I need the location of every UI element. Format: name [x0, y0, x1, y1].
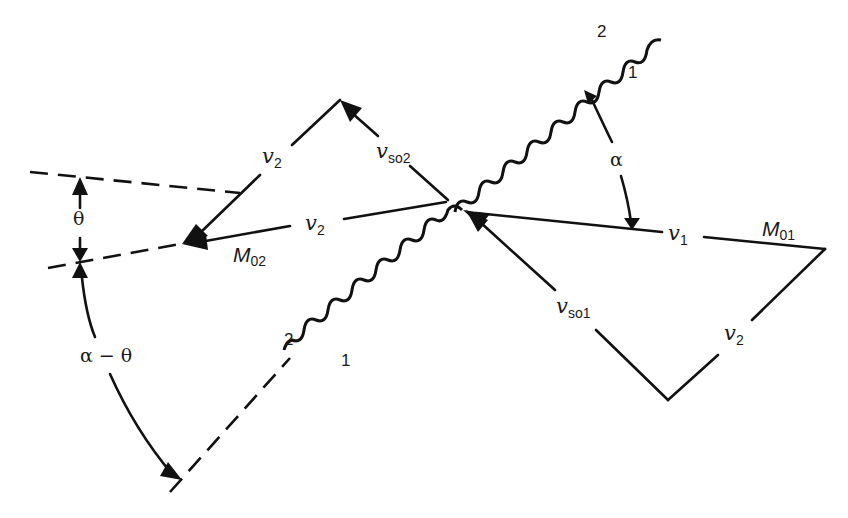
label-M01: M01: [762, 217, 795, 243]
alpha-arc-upper: [592, 100, 612, 142]
label-lower-wave-side-1: 1: [341, 351, 350, 370]
v2-middle-vector-right-segment: [344, 202, 446, 219]
label-theta: θ: [73, 207, 84, 229]
label-v1: v1: [668, 221, 688, 248]
label-upper-wave-side-1: 1: [628, 63, 637, 82]
vso2-vector-upper-segment: [352, 113, 378, 136]
alpha-theta-arrowhead-top-icon: [72, 262, 88, 278]
v2-upper-vector-top-segment: [292, 100, 340, 145]
alpha-theta-arc-upper: [82, 278, 95, 337]
label-v2-middle: v2: [305, 211, 325, 238]
shock-vector-diagram: v2 vso2 v2 M02 v1 M01 vso1 v2 θ α α − θ …: [0, 0, 848, 518]
v2-middle-vector-left-segment: [200, 226, 290, 242]
alpha-theta-arc-lower: [110, 374, 172, 474]
label-v2-lower: v2: [724, 321, 744, 348]
label-lower-wave-side-2: 2: [284, 330, 293, 349]
dashed-wave-extension: [170, 358, 290, 492]
v2-lower-vector-top-segment: [752, 249, 825, 320]
alpha-arc-lower: [621, 176, 631, 222]
vso1-vector-bottom-segment: [596, 330, 668, 400]
dashed-reference-line-upper: [30, 172, 240, 193]
vso2-vector-lower-segment: [410, 166, 448, 200]
label-upper-wave-side-2: 2: [597, 22, 606, 41]
dashed-reference-line-lower: [48, 243, 186, 268]
vso1-vector-top-segment: [480, 222, 555, 290]
label-vso2: vso2: [376, 139, 411, 166]
label-M02: M02: [233, 243, 266, 269]
label-alpha: α: [610, 148, 623, 170]
v2-lower-vector-bottom-segment: [668, 355, 718, 400]
v2-upper-vector-bottom-segment: [200, 175, 260, 233]
label-vso1: vso1: [556, 294, 591, 321]
label-v2-upper: v2: [262, 144, 282, 171]
label-alpha-minus-theta: α − θ: [80, 344, 132, 366]
theta-arrowhead-top-icon: [72, 177, 88, 195]
